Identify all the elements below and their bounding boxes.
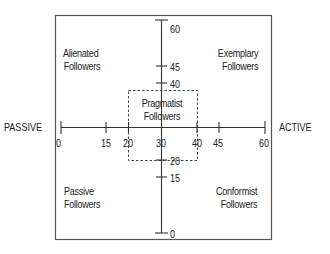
active-axis-label: ACTIVE bbox=[279, 121, 312, 133]
pragmatist-followers-label: Pragmatist Followers bbox=[128, 97, 197, 123]
y-tick-15: 15 bbox=[170, 172, 180, 184]
exemplary-line2: Followers bbox=[218, 60, 258, 73]
conformist-followers-label: Conformist Followers bbox=[216, 185, 257, 211]
y-tick-20: 20 bbox=[170, 155, 180, 167]
y-tick-45: 45 bbox=[170, 61, 180, 73]
vertical-axis bbox=[155, 20, 168, 233]
pragmatist-line2: Followers bbox=[128, 110, 197, 123]
x-tick-30: 30 bbox=[156, 137, 166, 149]
y-tick-0: 0 bbox=[170, 228, 175, 240]
conformist-line2: Followers bbox=[216, 198, 257, 211]
exemplary-line1: Exemplary bbox=[218, 47, 258, 60]
quadrant-diagram: PASSIVE ACTIVE 0 15 20 30 40 45 60 60 45… bbox=[0, 0, 330, 254]
x-tick-40: 40 bbox=[192, 137, 202, 149]
passive-line1: Passive bbox=[64, 185, 100, 198]
passive-axis-label: PASSIVE bbox=[4, 121, 42, 133]
alienated-followers-label: Alienated Followers bbox=[63, 47, 100, 73]
x-tick-15: 15 bbox=[101, 137, 111, 149]
conformist-line1: Conformist bbox=[216, 185, 257, 198]
y-tick-40: 40 bbox=[170, 78, 180, 90]
pragmatist-line1: Pragmatist bbox=[128, 97, 197, 110]
x-tick-45: 45 bbox=[213, 137, 223, 149]
y-tick-60: 60 bbox=[170, 23, 180, 35]
passive-line2: Followers bbox=[64, 198, 100, 211]
alienated-line1: Alienated bbox=[63, 47, 100, 60]
alienated-line2: Followers bbox=[64, 60, 100, 73]
exemplary-followers-label: Exemplary Followers bbox=[218, 47, 258, 73]
passive-followers-label: Passive Followers bbox=[64, 185, 100, 211]
x-tick-0: 0 bbox=[56, 137, 61, 149]
x-tick-60: 60 bbox=[259, 137, 269, 149]
x-tick-20: 20 bbox=[123, 137, 133, 149]
